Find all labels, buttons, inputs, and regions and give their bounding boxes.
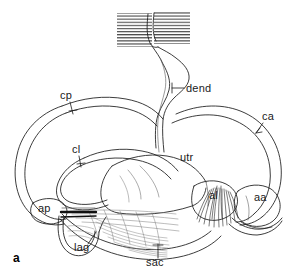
label-sac: sac bbox=[146, 257, 164, 268]
label-ap: ap bbox=[38, 203, 51, 214]
nerve-root-hatch-right bbox=[154, 12, 190, 44]
label-ca: ca bbox=[262, 111, 274, 122]
label-aa: aa bbox=[254, 192, 267, 203]
arrowhead-ca bbox=[256, 128, 262, 133]
leader-cl bbox=[79, 156, 81, 167]
label-dend: dend bbox=[186, 83, 211, 94]
tick-cl bbox=[77, 163, 85, 164]
panel-letter: a bbox=[13, 252, 20, 264]
label-lag: lag bbox=[74, 242, 89, 253]
label-cl: cl bbox=[72, 144, 80, 155]
leader-cp bbox=[70, 102, 73, 114]
labyrinth-figure: cp dend ca cl utr al aa ap lag sac a bbox=[0, 0, 306, 279]
label-al: al bbox=[209, 190, 218, 201]
utriculus bbox=[101, 155, 206, 214]
label-cp: cp bbox=[60, 90, 72, 101]
lateral-semicircular-canal bbox=[56, 149, 178, 210]
label-utr: utr bbox=[180, 152, 193, 163]
tick-cp bbox=[69, 110, 77, 111]
labyrinth-drawing bbox=[0, 0, 306, 279]
